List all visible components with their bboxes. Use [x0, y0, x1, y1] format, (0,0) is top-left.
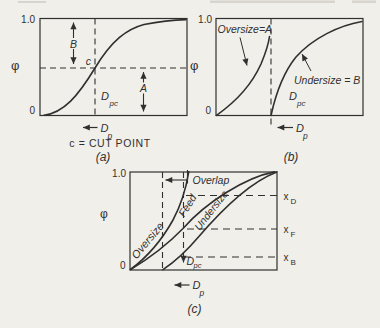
- panel-c-dp-axis-label-sub: p: [199, 288, 205, 298]
- panel-c-undersize-curve: [163, 172, 277, 270]
- panel-c-xf-tick-base: x: [284, 224, 289, 235]
- panel-a-dpc-label-sub: pc: [109, 99, 118, 108]
- panel-a-fraction-a-label: A: [139, 82, 147, 94]
- panel-c-xb-tick-base: x: [284, 252, 289, 263]
- panel-b-oversize-label: Oversize=A: [218, 23, 273, 35]
- panel-b-oversize-leader-arrow: [240, 38, 247, 66]
- panel-c-phi-axis-label: φ: [100, 207, 108, 221]
- panel-b-caption: (b): [284, 150, 299, 164]
- panel-c-xf-tick-sub: F: [291, 230, 296, 239]
- panel-b-ymax-tick: 1.0: [198, 14, 212, 25]
- scan-smudge: [210, 1, 335, 4]
- panel-c-xd-tick-base: x: [284, 191, 289, 202]
- panel-c-ymin-tick: 0: [120, 260, 126, 271]
- panel-a-fraction-b-label: B: [70, 38, 77, 50]
- scan-smudge: [18, 1, 46, 3]
- panel-c-dpc-label-sub: pc: [193, 261, 202, 270]
- figure-cut-point-diagrams: 1.0 0 φ B A c D pc D p c = CUT POINT (a)…: [0, 0, 380, 328]
- panel-b-undersize-curve: [271, 22, 362, 116]
- scan-smudge: [352, 1, 376, 4]
- panel-a-phi-axis-label: φ: [11, 58, 19, 73]
- panel-a-cut-point-note: c = CUT POINT: [69, 137, 150, 149]
- panel-c-overlap-label: Overlap: [193, 174, 230, 186]
- panel-c-xd-tick-sub: D: [291, 197, 297, 206]
- panel-a-dpc-label-base: D: [101, 90, 109, 102]
- panel-c-caption: (c): [188, 302, 202, 316]
- panel-b-ymin-tick: 0: [205, 105, 211, 116]
- panel-a-caption: (a): [96, 150, 111, 164]
- panel-c-xb-tick-sub: B: [291, 258, 296, 267]
- panel-a-ymin-tick: 0: [29, 105, 35, 116]
- panel-b-dpc-label-base: D: [289, 90, 297, 102]
- panel-b-undersize-leader-arrow: [302, 54, 311, 71]
- panel-b-phi-axis-label: φ: [190, 58, 198, 73]
- panel-b-dp-axis-label-sub: p: [302, 131, 308, 141]
- panel-c-ymax-tick: 1.0: [112, 168, 126, 179]
- panel-a: [40, 19, 187, 128]
- panel-b-undersize-label: Undersize = B: [294, 74, 360, 86]
- panel-b-dpc-label-sub: pc: [296, 99, 305, 108]
- scan-artifacts: [18, 1, 376, 4]
- panel-a-cut-point-label: c: [86, 55, 92, 67]
- panel-a-ymax-tick: 1.0: [21, 14, 35, 25]
- figure-canvas: 1.0 0 φ B A c D pc D p c = CUT POINT (a)…: [0, 0, 380, 328]
